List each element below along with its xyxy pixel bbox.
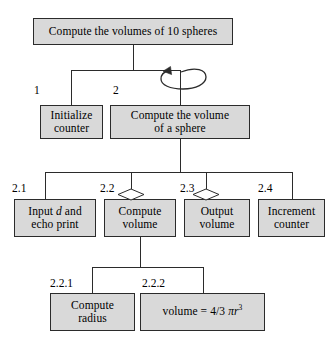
step-label-1: 1 xyxy=(34,84,40,96)
node-box-volume-formula[interactable]: volume = 4/3 πr3 xyxy=(140,293,265,331)
node-box-compute-volume[interactable]: Compute volume xyxy=(104,199,176,237)
node-label-2: Compute the volume of a sphere xyxy=(131,109,229,136)
connector-level4-bus xyxy=(92,267,203,268)
structure-chart: Compute the volumes of 10 spheres 1 Init… xyxy=(0,0,333,350)
connector-to-node-2 xyxy=(180,70,181,105)
node-label-2-2-1: Compute radius xyxy=(71,299,114,326)
connector-level2-bus xyxy=(71,70,181,71)
step-label-2: 2 xyxy=(113,84,119,96)
connector-to-node-2-2-1 xyxy=(92,267,93,293)
node-box-initialize-counter[interactable]: Initialize counter xyxy=(40,105,103,139)
step-label-2-2-2: 2.2.2 xyxy=(142,277,165,289)
step-label-2-1: 2.1 xyxy=(12,182,26,194)
step-label-2-2-1: 2.2.1 xyxy=(50,277,73,289)
node-label-2-2: Compute volume xyxy=(119,205,162,232)
formula-lhs: volume = 4/3 xyxy=(163,305,229,317)
connector-to-node-2-3 xyxy=(206,172,207,189)
node-label-root: Compute the volumes of 10 spheres xyxy=(49,25,217,39)
node-label-2-2-2: volume = 4/3 πr3 xyxy=(163,305,243,319)
node-label-1: Initialize counter xyxy=(51,109,93,136)
step-label-2-4: 2.4 xyxy=(258,182,272,194)
node-box-output-volume[interactable]: Output volume xyxy=(184,199,250,237)
step-label-2-3: 2.3 xyxy=(180,182,194,194)
connector-level3-bus xyxy=(45,172,292,173)
node-label-2-4: Increment counter xyxy=(268,205,316,232)
node-label-2-1-pre: Input xyxy=(28,205,56,217)
connector-node2-2-trunk xyxy=(140,237,141,267)
connector-root-trunk xyxy=(133,45,134,70)
connector-node2-trunk xyxy=(180,139,181,172)
connector-to-node-2-2-2 xyxy=(203,267,204,293)
connector-to-node-1 xyxy=(71,70,72,105)
connector-to-node-2-4 xyxy=(292,172,293,199)
node-box-compute-volume-of-sphere[interactable]: Compute the volume of a sphere xyxy=(110,105,250,139)
formula-exponent: 3 xyxy=(239,303,243,312)
node-label-2-3: Output volume xyxy=(199,205,234,232)
connector-to-node-2-2 xyxy=(131,172,132,189)
node-label-2-1: Input d and echo print xyxy=(28,205,82,232)
node-box-input-d-echo-print[interactable]: Input d and echo print xyxy=(14,199,96,237)
node-box-root[interactable]: Compute the volumes of 10 spheres xyxy=(33,18,233,45)
node-box-compute-radius[interactable]: Compute radius xyxy=(50,293,135,331)
connector-to-node-2-1 xyxy=(45,172,46,199)
step-label-2-2: 2.2 xyxy=(100,182,114,194)
node-box-increment-counter[interactable]: Increment counter xyxy=(258,199,325,237)
